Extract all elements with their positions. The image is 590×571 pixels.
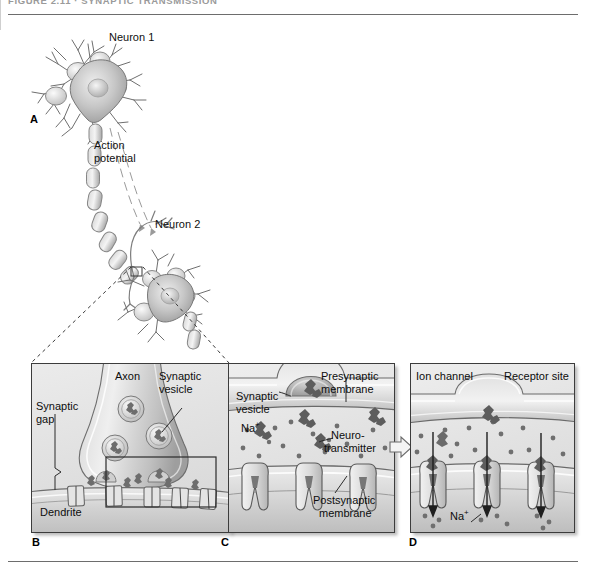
label-c-neurotransmitter-line1: Neuro- (331, 429, 365, 441)
panel-a-neuron-illustration (18, 24, 230, 354)
label-b-synaptic-gap-line1: Synaptic (36, 400, 78, 412)
label-c-sodium-charge: + (255, 420, 260, 429)
panel-letter-d: D (409, 536, 417, 548)
label-c-sodium: Na+ (241, 422, 260, 434)
header-rule (8, 14, 578, 15)
panel-b-synapse-overview: Axon Synaptic vesicle Synaptic gap Dendr… (31, 363, 231, 533)
panel-letter-a: A (30, 113, 38, 125)
label-d-sodium: Na+ (450, 510, 469, 522)
label-c-neurotransmitter-line2: transmitter (324, 442, 376, 454)
panel-letter-b: B (32, 536, 40, 548)
footer-rule (8, 561, 578, 562)
label-c-sodium-text: Na (241, 422, 255, 434)
panel-d-receptor-activation-detail: Ion channel Receptor site Na+ (410, 363, 575, 533)
label-action-potential-line1: Action (94, 139, 125, 152)
label-neuron-2: Neuron 2 (155, 218, 200, 231)
label-c-postsynaptic-line2: membrane (319, 507, 372, 519)
label-b-axon: Axon (115, 370, 140, 382)
label-c-synaptic-vesicle-line2: vesicle (236, 403, 270, 415)
label-action-potential-line2: potential (94, 152, 136, 165)
panel-letter-c: C (221, 536, 229, 548)
label-d-receptor-site: Receptor site (504, 370, 569, 382)
label-c-synaptic-vesicle-line1: Synaptic (236, 390, 278, 402)
label-c-postsynaptic-line1: Postsynaptic (313, 494, 375, 506)
label-b-synaptic-vesicle-line2: vesicle (159, 383, 193, 395)
label-neuron-1: Neuron 1 (109, 31, 154, 44)
label-d-ion-channel: Ion channel (416, 370, 473, 382)
figure-caption: FIGURE 2.11 · SYNAPTIC TRANSMISSION (8, 0, 217, 6)
panel-c-synaptic-cleft-detail: Synaptic vesicle Presynaptic membrane Na… (228, 363, 395, 533)
label-d-sodium-charge: + (464, 508, 469, 517)
label-d-sodium-text: Na (450, 510, 464, 522)
label-c-presynaptic-line2: membrane (321, 383, 374, 395)
label-b-dendrite: Dendrite (40, 506, 82, 518)
panel-d-drawing (411, 364, 574, 532)
page-edge-left (0, 0, 1, 30)
label-b-synaptic-vesicle-line1: Synaptic (159, 370, 201, 382)
label-b-synaptic-gap-line2: gap (36, 413, 54, 425)
figure-canvas: FIGURE 2.11 · SYNAPTIC TRANSMISSION (0, 0, 590, 571)
label-c-presynaptic-line1: Presynaptic (321, 370, 378, 382)
